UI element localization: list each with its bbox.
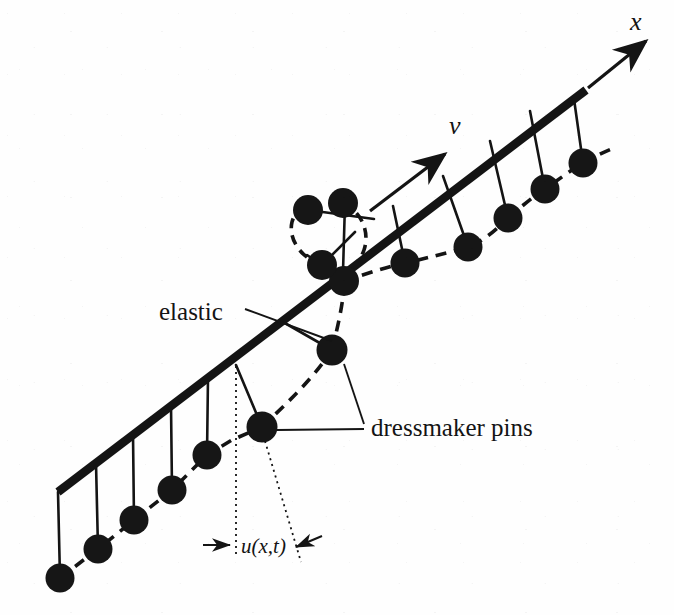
physics-diagram: elastic dressmaker pins x v u(x,t) [0, 0, 674, 615]
pins-leader-line-upper [344, 364, 364, 424]
wave-curve-rise [262, 350, 332, 427]
velocity-label: v [449, 111, 461, 140]
pin-head [84, 535, 113, 564]
pin-head [247, 412, 278, 443]
pin-head [494, 204, 523, 233]
pins-leader-line-lower [277, 429, 364, 430]
pin-head [293, 195, 323, 225]
displacement-right-arrow [296, 536, 322, 547]
wave-curve-right [344, 218, 508, 281]
pin-head [454, 233, 483, 262]
pin-head [120, 506, 149, 535]
x-axis-arrow [588, 41, 646, 88]
pin-head [158, 476, 187, 505]
displacement-label: u(x,t) [241, 534, 286, 558]
pin-head [569, 149, 598, 178]
displacement-markers-group [203, 366, 322, 562]
elastic-label: elastic [159, 298, 223, 325]
pin-head [391, 249, 420, 278]
dressmaker-pins-label: dressmaker pins [371, 414, 533, 441]
pins-group [46, 149, 598, 593]
pin-head [531, 175, 560, 204]
pin-head [46, 564, 75, 593]
pin-head [328, 188, 358, 218]
x-axis-label: x [629, 7, 642, 36]
figure-root: elastic dressmaker pins x v u(x,t) [0, 0, 674, 615]
pin-head [193, 441, 222, 470]
pin-head [317, 335, 348, 366]
pin-head [307, 250, 337, 280]
